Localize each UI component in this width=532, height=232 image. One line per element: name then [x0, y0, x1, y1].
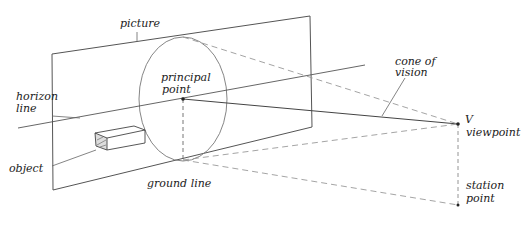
- horizon-line-label-1: horizon: [16, 91, 58, 102]
- picture-plane: [52, 16, 312, 190]
- cone-ray-top: [183, 37, 458, 124]
- station-point-label-1: station: [466, 180, 504, 191]
- cone-ray-bottom: [183, 124, 458, 160]
- ground-line-label: ground line: [147, 178, 211, 189]
- horizon-leader: [52, 116, 80, 118]
- principal-point-dot: [181, 97, 185, 101]
- horizon-line-label-2: line: [16, 103, 37, 114]
- perspective-diagram: picture principal point horizon line obj…: [0, 0, 532, 232]
- viewpoint-label: viewpoint: [466, 127, 520, 138]
- cone-of-vision-label-2: vision: [395, 67, 428, 78]
- diagram-drawing: [0, 0, 532, 232]
- picture-label: picture: [120, 18, 160, 29]
- object-label: object: [9, 163, 43, 174]
- object-box: [95, 126, 145, 150]
- principal-point-label-2: point: [162, 84, 191, 95]
- cone-leader: [382, 78, 405, 116]
- object-leader: [52, 150, 96, 166]
- station-point-label-2: point: [466, 193, 495, 204]
- station-point-dot: [457, 204, 460, 207]
- ground-ray-station: [183, 160, 458, 205]
- viewpoint-dot: [456, 122, 460, 126]
- principal-point-label-1: principal: [161, 72, 211, 83]
- viewpoint-letter-label: V: [465, 114, 473, 125]
